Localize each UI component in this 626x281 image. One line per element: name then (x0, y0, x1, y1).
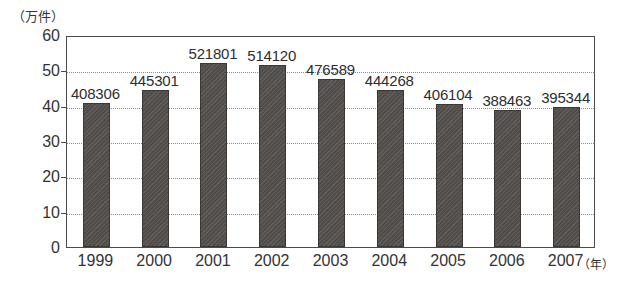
x-tick-label: 2001 (195, 252, 231, 270)
y-tick-label: 30 (24, 133, 60, 151)
bar-chart: （万件） 0102030405060 199920002001200220032… (0, 0, 626, 281)
x-tick-label: 2006 (489, 252, 525, 270)
y-tick-label: 20 (24, 168, 60, 186)
bar (318, 79, 345, 247)
bar (142, 90, 169, 247)
bar-value-label: 395344 (541, 89, 590, 106)
bar-value-label: 476589 (306, 61, 355, 78)
bar-value-label: 406104 (424, 86, 473, 103)
x-tick-label: 2002 (254, 252, 290, 270)
y-axis-unit-label: （万件） (12, 6, 64, 25)
x-tick-label: 2003 (313, 252, 349, 270)
bar-value-label: 408306 (71, 85, 120, 102)
bar-value-label: 445301 (130, 72, 179, 89)
x-axis-unit-label: （年） (578, 255, 614, 272)
bar-value-label: 444268 (365, 72, 414, 89)
bar (494, 110, 521, 247)
y-tick-label: 50 (24, 62, 60, 80)
bar (259, 65, 286, 247)
y-tick-label: 40 (24, 98, 60, 116)
bar-value-label: 388463 (482, 92, 531, 109)
x-tick-label: 2005 (430, 252, 466, 270)
bar (553, 107, 580, 247)
bar (377, 90, 404, 247)
x-tick-label: 1999 (78, 252, 114, 270)
x-tick-label: 2004 (371, 252, 407, 270)
bar-value-label: 514120 (247, 47, 296, 64)
x-tick-label: 2000 (136, 252, 172, 270)
bar (200, 63, 227, 247)
bar (436, 104, 463, 247)
y-tick-label: 10 (24, 204, 60, 222)
bar-value-label: 521801 (189, 45, 238, 62)
y-tick-label: 0 (24, 239, 60, 257)
bar (83, 103, 110, 247)
y-tick-label: 60 (24, 27, 60, 45)
